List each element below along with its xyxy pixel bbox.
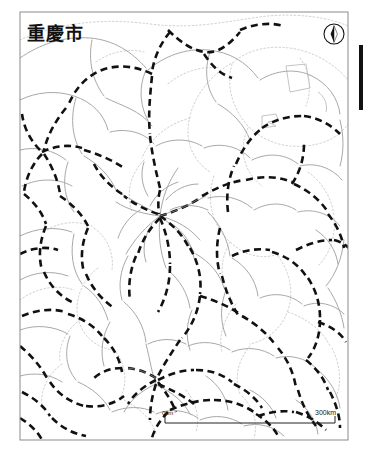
scale-label-max: 300km bbox=[315, 409, 336, 416]
map-background bbox=[0, 0, 370, 470]
scale-label-min: 0km bbox=[162, 410, 173, 416]
page-title: 重慶市 bbox=[27, 25, 84, 43]
compass-rose-icon[interactable] bbox=[324, 24, 344, 44]
map-container[interactable]: 重慶市 0km 300km bbox=[0, 0, 370, 470]
side-black-bar bbox=[359, 45, 363, 110]
map-canvas bbox=[0, 0, 370, 470]
